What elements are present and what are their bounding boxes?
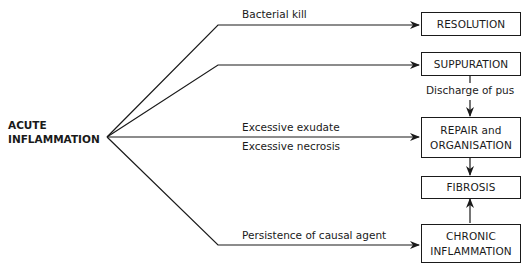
node-chronic-label-line2: INFLAMMATION <box>430 244 512 259</box>
source-label-line2: INFLAMMATION <box>8 132 100 146</box>
node-repair-organisation: REPAIR and ORGANISATION <box>421 117 521 158</box>
node-chronic-label-line1: CHRONIC <box>446 229 496 244</box>
edge-label-excessive-exudate: Excessive exudate <box>242 121 340 133</box>
node-repair-label-line2: ORGANISATION <box>430 138 512 153</box>
node-chronic-inflammation: CHRONIC INFLAMMATION <box>421 224 521 263</box>
edge-label-persistence: Persistence of causal agent <box>242 229 386 241</box>
node-resolution: RESOLUTION <box>421 12 521 36</box>
node-fibrosis-label: FIBROSIS <box>446 180 495 195</box>
node-fibrosis: FIBROSIS <box>421 176 521 199</box>
source-node-acute-inflammation: ACUTE INFLAMMATION <box>8 118 100 146</box>
edge-label-bacterial-kill: Bacterial kill <box>242 8 307 20</box>
node-suppuration: SUPPURATION <box>421 52 521 76</box>
source-label-line1: ACUTE <box>8 118 100 132</box>
node-resolution-label: RESOLUTION <box>437 17 506 32</box>
node-repair-label-line1: REPAIR and <box>440 123 501 138</box>
node-suppuration-label: SUPPURATION <box>434 57 509 72</box>
edge-label-discharge-of-pus: Discharge of pus <box>426 84 514 96</box>
edge-label-excessive-necrosis: Excessive necrosis <box>242 140 340 152</box>
